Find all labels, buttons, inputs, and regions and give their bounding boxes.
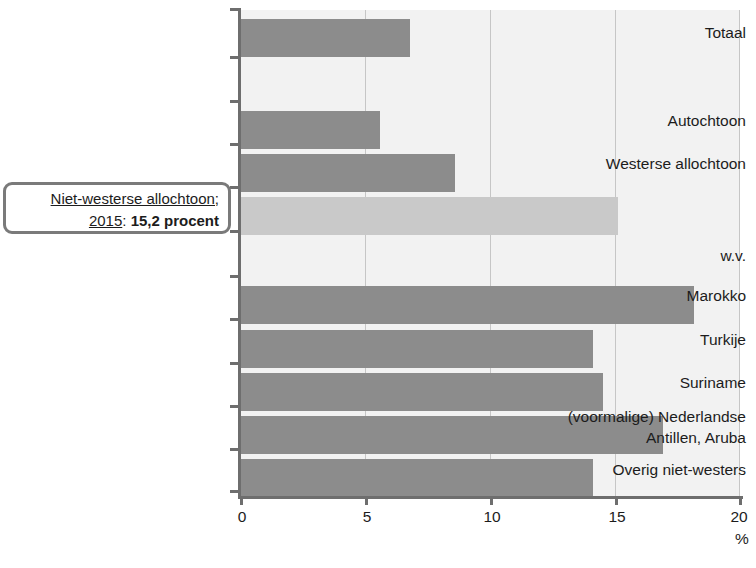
x-tick-5 [365, 496, 368, 505]
y-tick-2 [230, 100, 239, 103]
category-label-turkije: Turkije [524, 331, 756, 349]
y-tick-11 [230, 490, 239, 493]
y-tick-7 [230, 318, 239, 321]
x-tick-label-20: 20 [730, 508, 747, 526]
x-tick-20 [739, 496, 742, 505]
y-axis-line [238, 8, 241, 499]
y-tick-6 [230, 275, 239, 278]
x-axis-unit-label: % [735, 530, 749, 548]
callout-line-1: Niet-westerse allochtoon; [12, 188, 219, 210]
x-tick-0 [240, 496, 243, 505]
category-label-suriname: Suriname [524, 374, 756, 392]
category-label-marokko: Marokko [524, 287, 756, 305]
x-tick-label-5: 5 [363, 508, 372, 526]
x-tick-10 [490, 496, 493, 505]
x-tick-label-10: 10 [483, 508, 500, 526]
bar-niet-westerse-allochtoon[interactable] [241, 197, 618, 235]
bar-chart: Totaal Autochtoon Westerse allochtoon w.… [0, 0, 756, 568]
category-label-autochtoon: Autochtoon [524, 112, 756, 130]
callout-line-2: 2015: 15,2 procent [12, 210, 219, 232]
y-tick-1 [230, 56, 239, 59]
y-tick-4 [230, 186, 239, 189]
y-tick-5 [230, 230, 239, 233]
x-tick-label-15: 15 [608, 508, 625, 526]
y-tick-0 [230, 8, 239, 11]
x-tick-label-0: 0 [238, 508, 247, 526]
callout-separator: : [122, 212, 130, 229]
callout-annotation-box[interactable]: Niet-westerse allochtoon; 2015: 15,2 pro… [3, 182, 231, 234]
category-label-wv: w.v. [524, 247, 756, 265]
callout-value: 15,2 procent [131, 212, 219, 229]
footer-cut-text [8, 556, 568, 568]
y-tick-10 [230, 448, 239, 451]
bar-autochtoon[interactable] [241, 111, 380, 149]
x-tick-15 [615, 496, 618, 505]
y-tick-9 [230, 405, 239, 408]
bar-totaal[interactable] [241, 19, 410, 57]
category-label-antillen-aruba: (voormalige) Nederlandse Antillen, Aruba [524, 406, 756, 448]
bar-westerse-allochtoon[interactable] [241, 154, 455, 192]
callout-year: 2015 [89, 212, 122, 229]
y-tick-3 [230, 143, 239, 146]
category-label-totaal: Totaal [524, 24, 756, 42]
category-label-overig-niet-westers: Overig niet-westers [524, 461, 756, 479]
y-tick-8 [230, 362, 239, 365]
category-label-westerse-allochtoon: Westerse allochtoon [524, 155, 756, 173]
